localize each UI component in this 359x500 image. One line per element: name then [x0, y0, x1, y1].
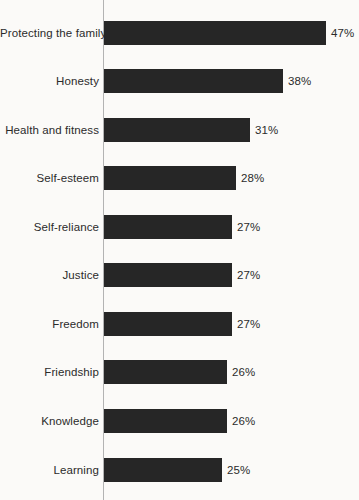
bar [104, 312, 232, 336]
category-label: Protecting the family [0, 21, 99, 45]
value-label: 27% [237, 263, 260, 287]
category-label: Learning [0, 458, 99, 482]
bar-row: Self-reliance 27% [0, 215, 359, 239]
value-label: 25% [227, 458, 250, 482]
bar [104, 263, 232, 287]
bar-row: Protecting the family 47% [0, 21, 359, 45]
bar-row: Knowledge 26% [0, 409, 359, 433]
value-label: 27% [237, 215, 260, 239]
value-label: 38% [288, 69, 311, 93]
bar [104, 69, 283, 93]
bar-row: Honesty 38% [0, 69, 359, 93]
bar-row: Learning 25% [0, 458, 359, 482]
value-label: 26% [232, 360, 255, 384]
bar [104, 118, 250, 142]
bar [104, 458, 222, 482]
value-label: 28% [241, 166, 264, 190]
bar [104, 360, 227, 384]
category-label: Freedom [0, 312, 99, 336]
category-label: Honesty [0, 69, 99, 93]
horizontal-bar-chart: Protecting the family 47% Honesty 38% He… [0, 0, 359, 500]
category-label: Self-esteem [0, 166, 99, 190]
value-label: 31% [255, 118, 278, 142]
value-label: 26% [232, 409, 255, 433]
category-label: Knowledge [0, 409, 99, 433]
category-label: Self-reliance [0, 215, 99, 239]
bar-row: Freedom 27% [0, 312, 359, 336]
bar-row: Self-esteem 28% [0, 166, 359, 190]
category-label: Health and fitness [0, 118, 99, 142]
value-label: 27% [237, 312, 260, 336]
bar [104, 21, 326, 45]
bar-row: Justice 27% [0, 263, 359, 287]
category-label: Friendship [0, 360, 99, 384]
category-label: Justice [0, 263, 99, 287]
bar-row: Health and fitness 31% [0, 118, 359, 142]
bar [104, 409, 227, 433]
value-label: 47% [331, 21, 354, 45]
bar-row: Friendship 26% [0, 360, 359, 384]
bar [104, 215, 232, 239]
bar [104, 166, 236, 190]
